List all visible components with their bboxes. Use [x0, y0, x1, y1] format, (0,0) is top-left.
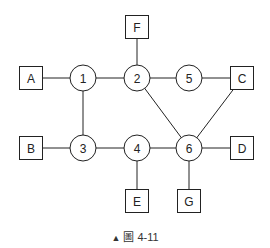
box-node-D: D [231, 137, 254, 160]
circle-node-5: 5 [176, 65, 202, 91]
box-node-E: E [126, 190, 149, 213]
box-node-C: C [231, 67, 254, 90]
box-node-G: G [178, 190, 201, 213]
circle-node-2: 2 [124, 65, 150, 91]
node-label: C [238, 72, 247, 86]
box-node-F: F [126, 16, 149, 39]
node-label: A [27, 72, 35, 86]
node-label: 2 [134, 72, 141, 86]
circle-node-1: 1 [70, 65, 96, 91]
node-label: 5 [186, 72, 193, 86]
node-label: F [133, 21, 140, 35]
node-label: G [184, 195, 193, 209]
circle-node-6: 6 [176, 135, 202, 161]
node-label: 3 [80, 142, 87, 156]
node-label: 1 [80, 72, 87, 86]
box-node-A: A [20, 67, 43, 90]
node-label: E [133, 195, 141, 209]
network-diagram: 123456AFCBDEG [0, 0, 270, 225]
edges [31, 27, 242, 201]
box-node-B: B [20, 137, 43, 160]
node-label: 6 [186, 142, 193, 156]
figure-caption: ▲圖 4-11 [0, 228, 270, 244]
node-label: D [238, 142, 247, 156]
caption-text: 圖 4-11 [123, 231, 158, 243]
circle-node-4: 4 [124, 135, 150, 161]
node-label: B [27, 142, 35, 156]
circle-node-3: 3 [70, 135, 96, 161]
node-label: 4 [134, 142, 141, 156]
triangle-marker-icon: ▲ [111, 233, 120, 243]
